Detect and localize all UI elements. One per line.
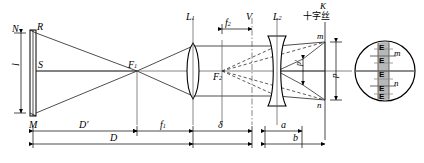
label-D: D <box>110 133 117 143</box>
dimension-object-height <box>14 33 26 113</box>
label-object-height-l: l <box>11 63 21 66</box>
chart-letter-E-1: E <box>379 44 384 52</box>
label-V: V <box>246 12 252 22</box>
label-K: K <box>320 2 326 11</box>
label-crosshair-cjk: 十字丝 <box>303 12 330 21</box>
label-N: N <box>12 24 19 34</box>
label-L1: L1 <box>186 12 195 22</box>
label-f2: f2 <box>225 18 231 28</box>
label-D-prime: D' <box>79 120 88 130</box>
label-F2: F2 <box>213 72 222 82</box>
label-b: b <box>293 133 298 143</box>
lens-L1 <box>187 18 199 125</box>
optical-ray-diagram: N R S M l F1 L1 F2 V L2 K 十字丝 m n p' p m… <box>0 0 424 163</box>
chart-letter-E-5: E <box>379 93 384 101</box>
ray-bundle-right <box>277 42 325 100</box>
label-S: S <box>38 60 43 70</box>
ray-bundle-left <box>36 33 137 113</box>
label-p: p <box>330 74 339 79</box>
label-R: R <box>37 22 43 32</box>
lens-L2 <box>268 18 286 125</box>
label-fov-n: n <box>394 79 399 88</box>
label-a: a <box>281 120 286 130</box>
eyepiece-field-of-view <box>355 41 415 101</box>
label-f1: f1 <box>160 120 166 130</box>
label-p-prime: p' <box>295 60 303 66</box>
chart-letter-E-2: E <box>379 57 384 65</box>
label-fov-m: m <box>394 49 401 58</box>
diagram-canvas <box>0 0 424 163</box>
label-image-top-m: m <box>317 32 324 41</box>
label-delta: δ <box>218 120 223 130</box>
label-L2: L2 <box>273 12 282 22</box>
chart-letter-E-3: E <box>379 71 384 79</box>
label-F1: F1 <box>128 60 137 70</box>
label-M: M <box>29 120 37 130</box>
object-slit <box>30 30 36 116</box>
label-image-bottom-n: n <box>317 101 322 110</box>
